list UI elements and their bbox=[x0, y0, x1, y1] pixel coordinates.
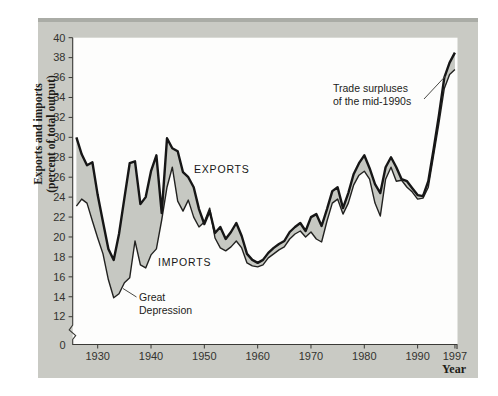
chart-canvas: 4038363432302826242220181614120193019401… bbox=[0, 0, 498, 396]
y-tick-label: 12 bbox=[53, 310, 65, 322]
y-tick-label: 40 bbox=[53, 32, 65, 44]
y-tick-label: 20 bbox=[53, 231, 65, 243]
x-tick-label: 1940 bbox=[139, 350, 163, 362]
chart-frame-top-edge bbox=[38, 18, 478, 22]
x-tick-label: 1950 bbox=[192, 350, 216, 362]
x-tick-label: 1930 bbox=[85, 350, 109, 362]
exports-series-label: EXPORTS bbox=[194, 163, 250, 175]
x-tick-label: 1990 bbox=[405, 350, 429, 362]
y-tick-label: 22 bbox=[53, 211, 65, 223]
x-tick-label: 1970 bbox=[299, 350, 323, 362]
x-tick-label: 1997 bbox=[443, 350, 467, 362]
y-axis-title-line2: (percent of total output) bbox=[45, 75, 58, 193]
trade-surpluses-annotation-line1: Trade surpluses bbox=[333, 82, 408, 94]
chart-figure: 4038363432302826242220181614120193019401… bbox=[0, 0, 498, 396]
great-depression-annotation-line1: Great bbox=[139, 291, 165, 303]
x-tick-label: 1960 bbox=[245, 350, 269, 362]
x-axis-title: Year bbox=[442, 362, 467, 376]
great-depression-annotation-line2: Depression bbox=[139, 304, 192, 316]
y-tick-label: 38 bbox=[53, 51, 65, 63]
y-zero-label: 0 bbox=[59, 339, 65, 351]
y-tick-label: 18 bbox=[53, 251, 65, 263]
y-axis-title-line1: Exports and imports bbox=[32, 83, 45, 185]
y-tick-label: 14 bbox=[53, 291, 65, 303]
x-tick-label: 1980 bbox=[352, 350, 376, 362]
imports-series-label: IMPORTS bbox=[158, 256, 211, 268]
trade-surpluses-annotation-line2: of the mid-1990s bbox=[333, 95, 411, 107]
y-tick-label: 16 bbox=[53, 271, 65, 283]
